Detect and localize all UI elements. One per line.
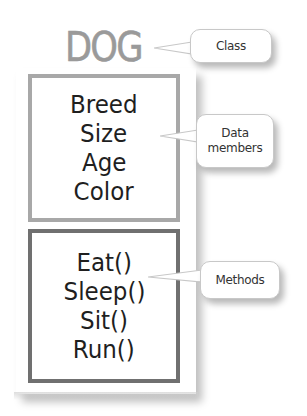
method: Sleep() xyxy=(63,277,145,306)
class-callout-pointer xyxy=(154,40,194,56)
class-callout-label: Class xyxy=(216,39,246,54)
data-members-box: Breed Size Age Color xyxy=(28,74,180,222)
methods-callout-pointer xyxy=(148,268,204,284)
data-member: Size xyxy=(80,119,127,148)
method: Sit() xyxy=(80,306,128,335)
data-member: Color xyxy=(74,177,134,206)
method: Eat() xyxy=(76,248,132,277)
methods-callout: Methods xyxy=(200,261,280,299)
data-members-callout: Data members xyxy=(196,114,274,168)
data-members-callout-line2: members xyxy=(208,141,263,156)
data-members-callout-line1: Data xyxy=(208,126,263,141)
method: Run() xyxy=(73,335,135,364)
class-name-title: DOG xyxy=(65,27,137,67)
methods-callout-label: Methods xyxy=(215,273,264,288)
data-members-callout-pointer xyxy=(160,128,200,144)
data-member: Breed xyxy=(70,90,138,119)
data-member: Age xyxy=(82,148,126,177)
class-callout: Class xyxy=(190,29,272,63)
card-shadow xyxy=(14,392,198,400)
methods-box: Eat() Sleep() Sit() Run() xyxy=(28,229,180,383)
